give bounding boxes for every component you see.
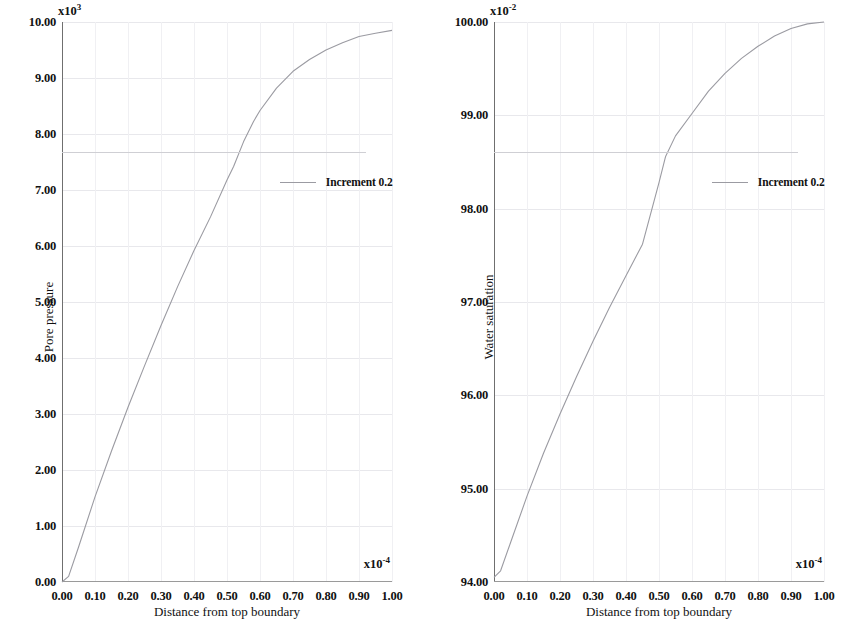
x-axis-tick-label: 0.60	[249, 589, 270, 604]
x-axis-title-left: Distance from top boundary	[62, 604, 392, 620]
y-axis-tick-label: 7.00	[35, 183, 56, 198]
y-axis-tick-label: 96.00	[461, 388, 488, 403]
data-curve-left	[62, 22, 392, 582]
y-axis-tick-label: 5.00	[35, 295, 56, 310]
y-axis-tick-label: 99.00	[461, 108, 488, 123]
x-axis-tick-label: 0.70	[282, 589, 303, 604]
x-axis-tick-label: 0.10	[84, 589, 105, 604]
x-axis-tick-label: 0.10	[516, 589, 537, 604]
y-multiplier-base-left: x10	[58, 4, 77, 18]
y-multiplier-exponent-right: -2	[509, 2, 517, 12]
y-axis-tick-label: 0.00	[35, 575, 56, 590]
figure-canvas: Pore pressure Distance from top boundary…	[0, 0, 855, 634]
x-axis-tick-label: 0.20	[117, 589, 138, 604]
y-axis-tick-label: 8.00	[35, 127, 56, 142]
x-axis-tick-label: 1.00	[813, 589, 834, 604]
y-axis-tick-label: 97.00	[461, 295, 488, 310]
y-axis-multiplier-right: x10-2	[490, 2, 516, 19]
y-axis-tick-label: 10.00	[29, 15, 56, 30]
x-axis-tick-label: 0.80	[747, 589, 768, 604]
gridline-vertical	[824, 22, 825, 582]
x-axis-tick-label: 0.90	[348, 589, 369, 604]
x-axis-tick-label: 0.90	[780, 589, 801, 604]
plot-area-left: x103 x10-4 0.001.002.003.004.005.006.007…	[62, 22, 392, 582]
x-axis-tick-label: 0.30	[582, 589, 603, 604]
y-multiplier-base-right: x10	[490, 4, 509, 18]
y-axis-tick-label: 100.00	[455, 15, 488, 30]
y-axis-tick-label: 94.00	[461, 575, 488, 590]
x-axis-title-right: Distance from top boundary	[494, 604, 824, 620]
y-axis-tick-label: 95.00	[461, 481, 488, 496]
x-axis-tick-label: 0.00	[483, 589, 504, 604]
y-axis-multiplier-left: x103	[58, 2, 81, 19]
x-axis-tick-label: 1.00	[381, 589, 402, 604]
gridline-vertical	[392, 22, 393, 582]
x-axis-tick-label: 0.40	[183, 589, 204, 604]
y-axis-tick-label: 6.00	[35, 239, 56, 254]
y-multiplier-exponent-left: 3	[77, 2, 82, 12]
chart-panel-water-saturation: Water saturation Distance from top bound…	[428, 0, 855, 634]
x-axis-tick-label: 0.60	[681, 589, 702, 604]
x-axis-tick-label: 0.70	[714, 589, 735, 604]
y-axis-title-left: Pore pressure	[41, 282, 57, 352]
y-axis-tick-label: 3.00	[35, 407, 56, 422]
y-axis-tick-label: 98.00	[461, 201, 488, 216]
x-axis-tick-label: 0.40	[615, 589, 636, 604]
x-axis-tick-label: 0.80	[315, 589, 336, 604]
x-axis-tick-label: 0.20	[549, 589, 570, 604]
plot-area-right: x10-2 x10-4 94.0095.0096.0097.0098.0099.…	[494, 22, 824, 582]
x-axis-tick-label: 0.00	[51, 589, 72, 604]
chart-panel-pore-pressure: Pore pressure Distance from top boundary…	[0, 0, 427, 634]
y-axis-tick-label: 4.00	[35, 351, 56, 366]
y-axis-tick-label: 2.00	[35, 463, 56, 478]
x-axis-tick-label: 0.50	[648, 589, 669, 604]
x-axis-tick-label: 0.30	[150, 589, 171, 604]
x-axis-tick-label: 0.50	[216, 589, 237, 604]
y-axis-tick-label: 9.00	[35, 71, 56, 86]
data-curve-right	[494, 22, 824, 582]
y-axis-tick-label: 1.00	[35, 519, 56, 534]
